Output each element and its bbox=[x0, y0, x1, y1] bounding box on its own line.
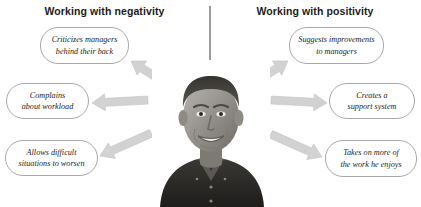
callout-line-1: Allows difficult bbox=[19, 147, 85, 158]
callout-line-1: Complains bbox=[22, 90, 74, 101]
arrow-to-allows bbox=[97, 125, 155, 163]
callout-line-2: situations to worsen bbox=[19, 158, 85, 169]
callout-line-2: behind their back bbox=[52, 46, 118, 57]
callout-line-2: about workload bbox=[22, 101, 74, 112]
portrait-photo bbox=[152, 63, 270, 207]
callout-takes-on-more-work[interactable]: Takes on more of the work he enjoys bbox=[325, 140, 417, 177]
callout-line-2: support system bbox=[348, 101, 397, 112]
callout-allows-difficult-situations[interactable]: Allows difficult situations to worsen bbox=[5, 140, 98, 176]
arrow-to-creates bbox=[271, 92, 328, 112]
heading-working-with-positivity: Working with positivity bbox=[209, 5, 421, 17]
callout-line-1: Criticizes managers bbox=[52, 34, 118, 45]
arrow-to-complains bbox=[92, 92, 149, 112]
heading-working-with-negativity: Working with negativity bbox=[0, 5, 209, 17]
callout-line-2: to managers bbox=[298, 46, 374, 57]
callout-suggests-improvements[interactable]: Suggests improvements to managers bbox=[289, 27, 384, 64]
arrow-to-takes bbox=[267, 126, 325, 164]
callout-line-2: the work he enjoys bbox=[340, 159, 401, 170]
callout-criticizes-managers[interactable]: Criticizes managers behind their back bbox=[40, 27, 129, 64]
behaviour-diagram: Working with negativity Working with pos… bbox=[0, 0, 421, 207]
callout-line-1: Suggests improvements bbox=[298, 34, 374, 45]
callout-line-1: Takes on more of bbox=[340, 147, 401, 158]
callout-line-1: Creates a bbox=[348, 90, 397, 101]
center-divider-line bbox=[209, 6, 211, 60]
callout-complains-about-workload[interactable]: Complains about workload bbox=[6, 83, 89, 119]
callout-creates-support-system[interactable]: Creates a support system bbox=[329, 83, 415, 119]
